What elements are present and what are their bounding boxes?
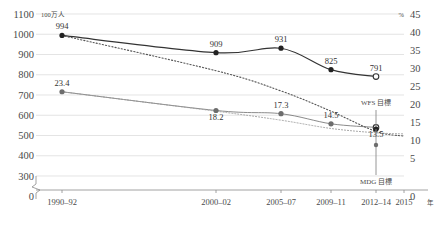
data-point-label: 825 [325,56,338,66]
x-axis-tick: 2000–02 [201,197,231,207]
data-point-marker [59,33,64,38]
data-point-label: 17.3 [274,100,289,110]
data-point-label: 791 [370,63,383,73]
left-axis-tick: 300 [18,171,34,182]
data-point-label: 909 [210,39,223,49]
left-axis-tick: 400 [18,150,34,161]
series-line [62,35,404,136]
right-axis-tick-labels: 454035302520151050 [410,9,421,202]
mdg-target-label: MDG 目標 [360,177,392,186]
data-point-label: 23.4 [55,78,71,88]
right-axis-tick: 30 [410,63,421,74]
data-point-marker [278,111,283,116]
series-lines [62,35,404,136]
series-line [62,92,404,134]
data-point-marker [59,89,64,94]
right-axis-tick: 45 [410,9,421,20]
data-point-label: 18.2 [209,112,224,122]
right-axis-unit-label: % [399,11,405,18]
data-point-marker [328,67,333,72]
x-axis-tick: 2009–11 [316,197,345,207]
x-axis-tick: 2012–14 [361,197,392,207]
data-point-label: 931 [275,34,288,44]
x-axis-unit-label: 年 [427,198,434,207]
left-axis-tick: 0 [29,191,34,202]
right-axis-tick: 10 [410,135,421,146]
right-axis-tick: 25 [410,81,421,92]
x-axis-tick: 1990–92 [47,197,77,207]
chart-container: 110010009008007006005004003000 454035302… [0,0,442,228]
right-axis-tick: 15 [410,117,421,128]
x-axis-tick: 2015 [396,197,413,207]
left-axis-tick: 600 [18,110,34,121]
data-point-marker [328,121,333,126]
data-point-marker [213,50,218,55]
target-annotations: WFS 目標 MDG 目標 [360,98,392,186]
right-axis-tick: 5 [410,153,415,164]
right-axis-tick: 35 [410,45,421,56]
data-point-label: 14.5 [324,110,339,120]
data-point-label: 994 [56,21,70,31]
right-axis-tick: 20 [410,99,421,110]
data-point-marker [373,74,379,80]
x-axis-tick-labels: 1990–922000–022005–072009–112012–142015 [47,190,412,207]
series-data-labels: 99490993182579123.418.217.314.513.5 [55,21,384,139]
wfs-target-label: WFS 目標 [361,98,391,107]
left-axis-tick: 500 [18,130,34,141]
left-axis-tick: 700 [18,90,34,101]
left-axis-tick-labels: 110010009008007006005004003000 [13,9,34,202]
right-axis-tick: 40 [410,27,421,38]
x-axis-tick: 2005–07 [266,197,296,207]
left-axis-unit-label: 100万人 [41,11,65,19]
data-point-marker [278,46,283,51]
left-axis-tick: 1000 [13,29,34,40]
left-axis-tick: 800 [18,69,34,80]
line-chart: 110010009008007006005004003000 454035302… [0,0,442,228]
left-axis-tick: 900 [18,49,34,60]
left-axis-tick: 1100 [13,9,34,20]
mdg-target-marker [374,143,378,147]
